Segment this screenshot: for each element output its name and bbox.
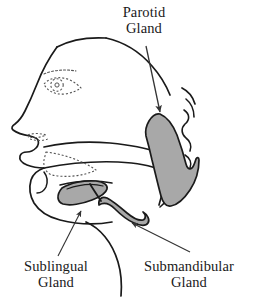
alveolar-ridge-path — [37, 172, 47, 193]
parotid-label-line2: Gland — [96, 20, 192, 36]
palate-path — [44, 162, 160, 170]
cheek-line-path — [106, 38, 170, 95]
eye-iris — [51, 79, 63, 91]
sublingual-gland-label: Sublingual Gland — [2, 258, 110, 290]
parotid-label-line1: Parotid — [96, 4, 192, 20]
face-profile-path — [12, 47, 57, 168]
submandibular-label-line1: Submandibular — [127, 258, 251, 274]
submandibular-label-line2: Gland — [127, 274, 251, 290]
submandibular-gland-label: Submandibular Gland — [127, 258, 251, 290]
parotid-gland-shape[interactable] — [146, 114, 199, 206]
submandibular-pointer-arrow — [132, 223, 190, 252]
maxilla-path — [44, 142, 157, 152]
sublingual-label-line2: Gland — [2, 274, 110, 290]
parotid-pointer-arrow — [146, 46, 160, 112]
skull-top-path — [57, 38, 106, 47]
submandibular-gland-shape[interactable] — [99, 197, 149, 225]
lip-crease-path — [30, 139, 48, 141]
eye-outline-path — [44, 78, 81, 94]
ear-tragus-path — [182, 110, 191, 151]
eye-pupil — [55, 83, 59, 87]
glands-group — [58, 114, 199, 225]
sublingual-pointer-arrow — [58, 211, 81, 256]
sublingual-label-line1: Sublingual — [2, 258, 110, 274]
salivary-glands-figure: Parotid Gland Sublingual Gland Submandib… — [0, 0, 253, 308]
eyebrow-path — [44, 70, 76, 74]
parotid-gland-label: Parotid Gland — [96, 4, 192, 36]
